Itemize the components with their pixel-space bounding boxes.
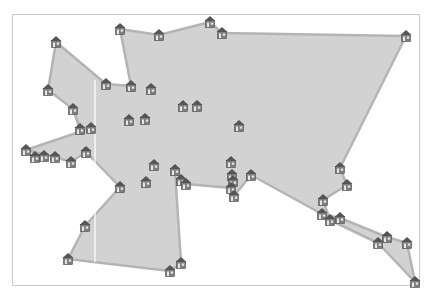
house-icon[interactable] [402,237,413,249]
house-icon[interactable] [401,30,412,42]
house-icon[interactable] [335,212,346,224]
map-canvas[interactable] [0,0,436,303]
house-icon[interactable] [205,16,216,28]
house-icon[interactable] [382,231,393,243]
house-icon[interactable] [115,23,126,35]
house-icon[interactable] [51,36,62,48]
house-icon[interactable] [21,144,32,156]
house-icon[interactable] [154,29,165,41]
